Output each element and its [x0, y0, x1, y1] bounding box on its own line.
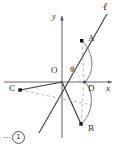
point-c-marker — [18, 88, 21, 91]
figure-number-value: 1 — [12, 131, 25, 144]
point-d-marker — [83, 81, 86, 84]
line-l-label: ℓ — [103, 2, 107, 12]
axis-label-y: y — [52, 12, 56, 21]
point-b-marker — [79, 122, 82, 125]
segment-o-b — [62, 82, 81, 124]
figure-number: ⋯1 — [3, 131, 25, 144]
angle-label-theta: θ — [70, 66, 74, 74]
point-a-marker — [80, 39, 83, 42]
origin-label: O — [51, 66, 58, 75]
axis-label-x: x — [106, 84, 110, 93]
point-label-a: A — [88, 34, 95, 43]
point-label-b: B — [88, 124, 94, 133]
figure-number-leader: ⋯ — [3, 133, 12, 142]
point-label-c: C — [9, 84, 15, 93]
dashed-segment-a-d — [82, 41, 84, 82]
figure-canvas — [0, 0, 120, 150]
geometry-figure: y x O ℓ θ A B C D ⋯1 — [0, 0, 120, 150]
segment-o-c — [20, 82, 62, 90]
point-label-d: D — [88, 84, 95, 93]
